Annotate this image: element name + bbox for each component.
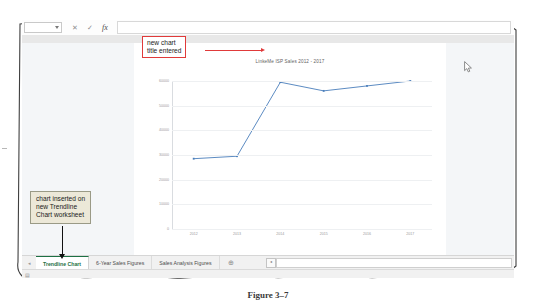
callout-leader-line-new-chart-title — [205, 50, 263, 51]
callout-new-chart-title: new chart title entered — [142, 36, 186, 58]
y-axis-tick-label: 20000 — [159, 178, 169, 182]
callout-line-1: new chart — [147, 39, 181, 47]
chart-gridline — [172, 155, 432, 156]
tab-scroll-left-button[interactable]: ◂ — [22, 256, 36, 270]
callout-leader-line-chart-inserted — [62, 226, 63, 255]
x-axis-tick-label: 2013 — [233, 232, 241, 236]
y-axis-tick-label: 40000 — [159, 128, 169, 132]
horizontal-scrollbar[interactable]: ◂ — [266, 256, 513, 270]
chart-title[interactable]: LinkeMe ISP Sales 2012 - 2017 — [134, 59, 446, 64]
callout-line-1: chart inserted on — [36, 195, 85, 203]
callout-arrow-head-new-chart-title — [261, 48, 265, 52]
figure-caption: Figure 3–7 — [0, 290, 536, 300]
chart-gridline — [172, 229, 432, 230]
x-axis-tick-label: 2015 — [320, 232, 328, 236]
chart-gridline — [172, 180, 432, 181]
x-axis-tick-label: 2016 — [363, 232, 371, 236]
formula-bar-buttons: ✕ ✓ fx — [72, 24, 108, 32]
callout-line-3: Chart worksheet — [36, 211, 85, 219]
y-axis-tick-label: 0 — [167, 227, 169, 231]
add-sheet-button[interactable]: ⊕ — [220, 256, 242, 270]
status-bar: ▤ — [22, 269, 514, 278]
sheet-tab-sales-analysis-figures[interactable]: Sales Analysis Figures — [152, 256, 219, 270]
y-axis-tick-label: 30000 — [159, 153, 169, 157]
x-axis-tick-label: 2014 — [276, 232, 284, 236]
scroll-left-button[interactable]: ◂ — [266, 258, 276, 268]
scroll-track[interactable] — [276, 258, 513, 268]
chart-gridline — [172, 204, 432, 205]
chart-gridline — [172, 130, 432, 131]
cancel-icon[interactable]: ✕ — [72, 24, 78, 31]
callout-arrow-head-chart-inserted — [59, 254, 65, 259]
sheet-tab-bar: ◂ Trendline Chart6-Year Sales FiguresSal… — [22, 255, 514, 270]
insert-function-icon[interactable]: fx — [102, 24, 108, 32]
y-axis-tick-label: 60000 — [159, 79, 169, 83]
enter-icon[interactable]: ✓ — [87, 24, 93, 31]
y-axis-tick-label: 10000 — [159, 202, 169, 206]
excel-window: ✕ ✓ fx LinkeMe ISP Sales 2012 - 2017 010… — [22, 20, 514, 278]
chart-gridline — [172, 81, 432, 82]
y-axis-tick-label: 50000 — [159, 104, 169, 108]
mouse-cursor-icon — [464, 61, 473, 73]
chart-gridline — [172, 106, 432, 107]
chart-plot-area[interactable]: 0100002000030000400005000060000201220132… — [172, 81, 432, 229]
worksheet-canvas[interactable]: LinkeMe ISP Sales 2012 - 2017 0100002000… — [22, 43, 514, 255]
sheet-tab-6-year-sales-figures[interactable]: 6-Year Sales Figures — [89, 256, 152, 270]
callout-line-2: title entered — [147, 47, 181, 55]
x-axis-tick-label: 2017 — [406, 232, 414, 236]
chevron-down-icon — [55, 26, 59, 29]
name-box[interactable] — [24, 22, 62, 33]
status-bar-icon: ▤ — [25, 272, 31, 278]
figure-page: ✕ ✓ fx LinkeMe ISP Sales 2012 - 2017 010… — [0, 0, 536, 305]
page-margin-tick — [2, 148, 7, 149]
callout-chart-inserted: chart inserted on new Trendline Chart wo… — [30, 191, 91, 224]
chart-object[interactable]: LinkeMe ISP Sales 2012 - 2017 0100002000… — [134, 43, 446, 255]
formula-input[interactable] — [117, 21, 511, 34]
callout-line-2: new Trendline — [36, 203, 85, 211]
formula-bar: ✕ ✓ fx — [22, 20, 514, 36]
x-axis-tick-label: 2012 — [190, 232, 198, 236]
